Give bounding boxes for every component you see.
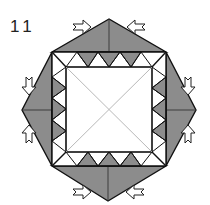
inner-square <box>66 67 152 152</box>
origami-step-diagram: 11 <box>0 0 210 205</box>
fold-diagram <box>0 0 210 205</box>
bottom-flap <box>52 166 166 201</box>
left-flap <box>22 52 52 166</box>
right-flap <box>166 52 196 166</box>
